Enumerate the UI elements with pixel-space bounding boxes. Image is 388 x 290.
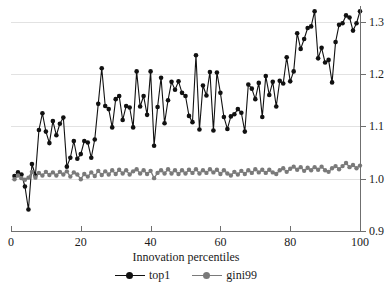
data-point-gini99 [107,172,111,176]
data-point-gini99 [110,168,114,172]
data-point-gini99 [40,173,44,177]
data-point-top1 [96,102,101,107]
data-point-gini99 [208,167,212,171]
data-point-gini99 [309,168,313,172]
data-point-gini99 [197,171,201,175]
data-point-top1 [298,47,303,52]
data-point-top1 [295,31,300,36]
data-point-top1 [127,105,132,110]
data-point-gini99 [257,170,261,174]
data-point-gini99 [344,161,348,165]
data-point-gini99 [82,172,86,176]
data-point-top1 [340,21,345,26]
data-point-gini99 [236,172,240,176]
data-point-top1 [347,15,352,20]
data-point-top1 [215,70,220,75]
data-point-top1 [138,104,143,109]
data-point-top1 [250,86,255,91]
data-point-gini99 [162,171,166,175]
data-point-gini99 [127,172,131,176]
data-point-top1 [183,94,188,99]
chart-plot-area [0,0,388,290]
data-point-top1 [176,79,181,84]
data-point-gini99 [187,168,191,172]
data-point-gini99 [333,164,337,168]
data-point-gini99 [281,166,285,170]
data-point-top1 [145,113,150,118]
data-point-gini99 [79,177,83,181]
data-point-top1 [92,137,97,142]
data-point-gini99 [30,170,34,174]
data-point-top1 [330,80,335,85]
data-point-top1 [194,53,199,58]
data-point-gini99 [250,171,254,175]
data-point-gini99 [319,164,323,168]
data-point-top1 [99,66,104,71]
y-tick [360,74,366,75]
data-point-top1 [197,127,202,132]
x-axis-line [11,231,361,232]
data-point-top1 [263,74,268,79]
data-point-top1 [44,129,49,134]
y-tick [360,179,366,180]
data-point-top1 [239,110,244,115]
data-point-top1 [65,164,70,169]
data-point-gini99 [141,168,145,172]
data-point-top1 [270,80,275,85]
data-point-gini99 [152,176,156,180]
data-point-gini99 [204,171,208,175]
legend-label-top1: top1 [149,269,170,281]
data-point-top1 [106,107,111,112]
y-tick [360,126,366,127]
series-line-top1 [14,11,360,209]
data-point-gini99 [316,168,320,172]
data-point-gini99 [117,168,121,172]
data-point-gini99 [215,168,219,172]
data-point-top1 [30,162,35,167]
x-tick-label: 100 [351,236,369,248]
data-point-gini99 [312,165,316,169]
data-point-top1 [113,97,118,102]
data-point-gini99 [159,168,163,172]
data-point-top1 [319,46,324,51]
data-point-top1 [333,40,338,45]
x-tick [220,226,221,232]
data-point-gini99 [96,169,100,173]
x-tick-label: 80 [284,236,296,248]
data-point-top1 [141,94,146,99]
data-point-gini99 [302,169,306,173]
data-point-top1 [134,69,139,74]
y-tick [360,22,366,23]
series-gini99 [12,161,362,182]
data-point-top1 [61,115,66,120]
data-point-gini99 [114,172,118,176]
data-point-gini99 [120,171,124,175]
data-point-top1 [120,118,125,123]
data-point-gini99 [26,175,30,179]
data-point-top1 [274,104,279,109]
data-point-top1 [243,129,248,134]
data-point-gini99 [75,172,79,176]
y-tick-label: 1.1 [369,120,384,132]
y-tick-label: 1.2 [369,68,384,80]
data-point-gini99 [86,174,90,178]
data-point-gini99 [274,172,278,176]
data-point-top1 [312,9,317,14]
data-point-gini99 [305,165,309,169]
data-point-gini99 [138,171,142,175]
x-tick [290,226,291,232]
x-tick-label: 40 [145,236,157,248]
data-point-top1 [256,81,261,86]
data-point-top1 [260,115,265,120]
data-point-gini99 [166,167,170,171]
x-tick [81,226,82,232]
x-tick-label: 0 [8,236,14,248]
data-point-gini99 [326,170,330,174]
chart-legend: top1 gini99 [0,269,372,281]
data-point-gini99 [351,163,355,167]
data-point-gini99 [201,168,205,172]
data-point-top1 [218,91,223,96]
data-point-gini99 [243,172,247,176]
y-tick-label: 1.3 [369,16,384,28]
data-point-top1 [26,207,31,212]
